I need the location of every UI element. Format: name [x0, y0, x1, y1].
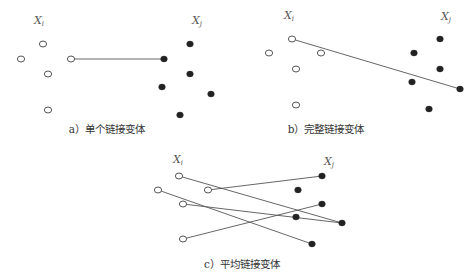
- cluster-i-point: [265, 50, 272, 56]
- cluster-j-point: [295, 187, 302, 193]
- cluster-i-point: [44, 107, 51, 113]
- linkage-line: [183, 204, 342, 223]
- cluster-j-point: [409, 79, 416, 85]
- cluster-j-point: [159, 84, 166, 90]
- cluster-i-point: [204, 187, 211, 193]
- cluster-j-point: [437, 66, 444, 72]
- cluster-j-point: [309, 241, 316, 247]
- cluster-j-point: [457, 86, 464, 92]
- cluster-i-point: [67, 56, 74, 62]
- cluster-i-point: [179, 236, 186, 242]
- linkage-line: [183, 204, 322, 239]
- cluster-j-point: [339, 220, 346, 226]
- panel-caption: a）单个链接变体: [69, 123, 146, 135]
- cluster-j-point: [208, 91, 215, 97]
- linkage-line: [208, 176, 322, 190]
- cluster-j-label: Xj: [191, 14, 203, 28]
- linkage-diagram: XiXja）单个链接变体XiXjb）完整链接变体XiXjc）平均链接变体: [0, 0, 476, 279]
- cluster-i-point: [17, 56, 24, 62]
- panel-caption: b）完整链接变体: [288, 123, 366, 135]
- cluster-j-point: [411, 50, 418, 56]
- cluster-i-point: [288, 36, 295, 42]
- cluster-j-point: [437, 36, 444, 42]
- cluster-i-label: Xi: [172, 153, 183, 167]
- panel-a: XiXja）单个链接变体: [17, 14, 214, 135]
- cluster-j-point: [293, 214, 300, 220]
- cluster-j-point: [187, 71, 194, 77]
- cluster-i-point: [39, 41, 46, 47]
- cluster-i-point: [292, 66, 299, 72]
- cluster-j-point: [187, 41, 194, 47]
- cluster-j-point: [161, 56, 168, 62]
- cluster-j-label: Xj: [440, 10, 452, 24]
- cluster-i-point: [292, 102, 299, 108]
- cluster-i-point: [317, 50, 324, 56]
- cluster-j-point: [177, 112, 184, 118]
- cluster-i-point: [44, 71, 51, 77]
- cluster-i-point: [179, 201, 186, 207]
- cluster-i-point: [154, 187, 161, 193]
- panel-b: XiXjb）完整链接变体: [265, 9, 463, 135]
- linkage-line: [179, 176, 342, 223]
- cluster-j-point: [319, 201, 326, 207]
- cluster-j-point: [426, 106, 433, 112]
- cluster-i-label: Xi: [33, 14, 44, 28]
- panel-caption: c）平均链接变体: [204, 258, 281, 270]
- linkage-line: [292, 39, 460, 89]
- cluster-j-label: Xj: [323, 155, 335, 169]
- cluster-i-point: [175, 173, 182, 179]
- cluster-j-point: [319, 173, 326, 179]
- panel-c: XiXjc）平均链接变体: [154, 153, 345, 270]
- cluster-i-label: Xi: [283, 9, 294, 23]
